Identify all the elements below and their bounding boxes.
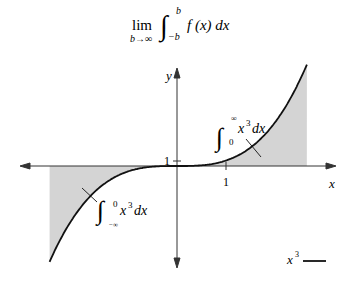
legend-label: x <box>286 252 293 267</box>
x-axis-right-arrow-icon <box>326 163 336 169</box>
left-dx: dx <box>134 203 148 218</box>
legend-power: 3 <box>295 250 299 259</box>
right-dx: dx <box>252 121 266 136</box>
left-integrand: x <box>119 203 127 218</box>
y-axis-up-arrow-icon <box>174 68 180 78</box>
right-upper-limit: ∞ <box>231 114 237 123</box>
upper-limit: b <box>176 5 181 16</box>
shaded-region-right <box>177 65 307 166</box>
lim-text: lim <box>132 17 152 33</box>
right-power: 3 <box>246 118 251 128</box>
y-axis <box>174 68 180 268</box>
y-axis-down-arrow-icon <box>174 258 180 268</box>
shaded-region-left <box>50 166 177 262</box>
y-tick-label: 1 <box>164 154 170 168</box>
x-axis-left-arrow-icon <box>20 163 30 169</box>
x-axis-label: x <box>328 176 335 191</box>
integrand-text: f (x) dx <box>187 17 230 34</box>
left-upper-limit: 0 <box>113 199 118 209</box>
left-lower-limit: −∞ <box>109 221 118 229</box>
right-lower-limit: 0 <box>229 137 234 147</box>
lim-subscript: b→∞ <box>130 33 152 44</box>
integral-diagram: lim b→∞ ∫ b −b f (x) dx x y 1 1 ∫ ∞ 0 x … <box>0 0 354 286</box>
right-integral-sign: ∫ <box>214 123 225 153</box>
left-integral-sign: ∫ <box>95 196 106 226</box>
x-tick-label: 1 <box>223 175 229 189</box>
title-formula: lim b→∞ ∫ b −b f (x) dx <box>130 5 230 44</box>
legend: x 3 <box>286 250 326 267</box>
y-axis-label: y <box>164 68 172 83</box>
right-integrand: x <box>237 121 245 136</box>
left-power: 3 <box>128 200 133 210</box>
lower-limit: −b <box>168 31 180 42</box>
